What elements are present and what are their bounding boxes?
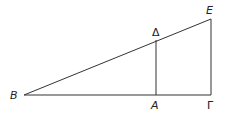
label-delta: Δ <box>152 27 160 38</box>
label-gamma: Γ <box>207 100 213 111</box>
segment-b-e <box>24 19 211 95</box>
label-b: B <box>10 90 18 101</box>
label-e: E <box>206 5 213 16</box>
triangle-diagram: B A Γ Δ E <box>0 0 226 113</box>
diagram-lines <box>0 0 226 113</box>
label-a: A <box>151 100 159 111</box>
